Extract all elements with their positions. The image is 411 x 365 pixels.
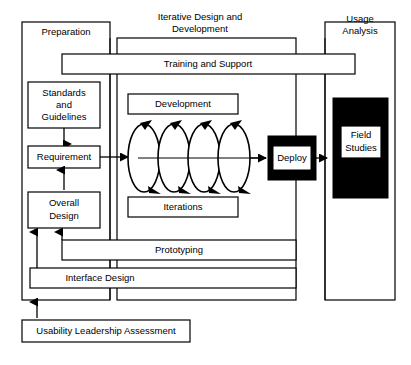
process-diagram: Preparation Iterative Design and Develop… [0, 0, 411, 365]
bar-training-and-support-label: Training and Support [164, 58, 253, 69]
box-field-studies-line2: Studies [345, 142, 377, 153]
column-heading-iterative-line2: Development [172, 23, 228, 34]
box-standards-and-guidelines-line3: Guidelines [42, 111, 87, 122]
box-field-studies-line1: Field [351, 129, 372, 140]
column-heading-iterative-line1: Iterative Design and [158, 11, 243, 22]
box-standards-and-guidelines-line1: Standards [42, 87, 86, 98]
box-development-label: Development [155, 98, 211, 109]
bar-prototyping-label: Prototyping [155, 244, 203, 255]
iteration-loop-group [128, 120, 262, 194]
bar-interface-design-label: Interface Design [65, 272, 134, 283]
column-heading-usage-analysis-line1: Usage [346, 13, 373, 24]
box-usability-leadership-assessment-label: Usability Leadership Assessment [36, 325, 176, 336]
box-requirement-label: Requirement [37, 151, 92, 162]
column-heading-preparation: Preparation [41, 26, 90, 37]
box-overall-design-line1: Overall [49, 197, 79, 208]
diagram-canvas: Preparation Iterative Design and Develop… [0, 0, 411, 365]
box-iterations-label: Iterations [163, 201, 202, 212]
box-overall-design-line2: Design [49, 210, 79, 221]
box-deploy-label: Deploy [277, 152, 307, 163]
column-heading-usage-analysis-line2: Analysis [342, 25, 378, 36]
box-standards-and-guidelines-line2: and [56, 99, 72, 110]
